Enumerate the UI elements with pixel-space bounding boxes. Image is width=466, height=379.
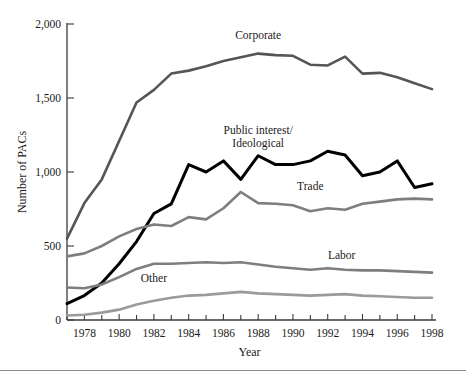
series-line-public-interest [67,151,432,303]
footer-rule [0,370,466,371]
y-axis-title: Number of PACs [15,131,29,214]
series-label-corporate: Corporate [235,29,281,42]
x-tick-label: 1990 [281,327,304,339]
x-tick-label: 1984 [177,327,200,339]
x-tick-label: 1996 [386,327,409,339]
pac-line-chart: 05001,0001,5002,000197819801982198419861… [0,0,466,379]
y-tick-label: 1,000 [35,166,61,179]
x-tick-label: 1978 [73,327,96,339]
series-label-trade: Trade [297,180,323,192]
chart-figure: 05001,0001,5002,000197819801982198419861… [0,0,466,379]
series-line-trade [67,192,432,256]
series-line-labor [67,262,432,288]
x-tick-label: 1988 [247,327,270,339]
x-tick-label: 1994 [351,327,374,339]
x-tick-label: 1992 [316,327,339,339]
x-tick-label: 1998 [421,327,444,339]
y-tick-label: 2,000 [35,18,61,31]
x-tick-label: 1982 [142,327,165,339]
series-line-other [67,292,432,316]
y-tick-label: 1,500 [35,92,61,105]
y-tick-label: 0 [55,314,61,326]
x-tick-label: 1980 [108,327,131,339]
series-label-other: Other [141,272,167,284]
x-axis-title: Year [238,345,260,359]
series-label-labor: Labor [328,249,356,261]
x-tick-label: 1986 [212,327,235,339]
y-tick-label: 500 [44,240,62,252]
series-label-public-interest: Public interest/Ideological [224,124,294,150]
